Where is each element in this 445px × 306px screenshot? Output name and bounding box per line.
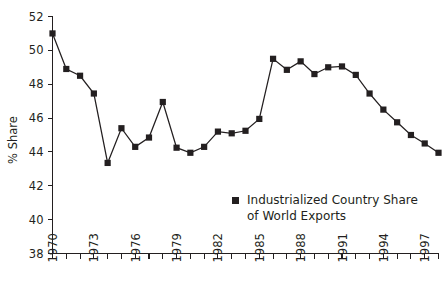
x-tick-label: 1982 <box>211 233 225 262</box>
data-point-marker <box>256 116 262 122</box>
data-point-marker <box>298 58 304 64</box>
data-point-marker <box>284 67 290 73</box>
data-point-marker <box>242 128 248 134</box>
y-tick-label: 48 <box>29 77 44 91</box>
y-tick-label: 46 <box>29 111 44 125</box>
data-point-marker <box>201 144 207 150</box>
y-tick-label: 42 <box>29 179 44 193</box>
y-tick-label: 44 <box>29 145 44 159</box>
data-point-marker <box>270 56 276 62</box>
x-tick-label: 1979 <box>170 233 184 262</box>
data-point-marker <box>77 73 83 79</box>
series-markers <box>49 30 441 166</box>
data-point-marker <box>146 134 152 140</box>
chart-legend: Industrialized Country Share of World Ex… <box>232 193 418 223</box>
line-chart: 3840424446485052 19701973197619791982198… <box>0 0 445 306</box>
x-axis: 1970197319761979198219851988199119941997 <box>46 233 439 262</box>
data-point-marker <box>160 99 166 105</box>
data-point-marker <box>49 30 55 36</box>
x-tick-label: 1970 <box>46 233 60 262</box>
square-marker-icon <box>232 197 239 204</box>
data-point-marker <box>394 119 400 125</box>
x-tick-label: 1985 <box>253 233 267 262</box>
data-point-marker <box>91 90 97 96</box>
y-tick-label: 52 <box>29 10 44 24</box>
data-point-marker <box>105 160 111 166</box>
data-point-marker <box>380 107 386 113</box>
y-tick-label: 38 <box>29 247 44 261</box>
data-point-marker <box>173 145 179 151</box>
x-tick-label: 1973 <box>87 233 101 262</box>
data-point-marker <box>353 72 359 78</box>
y-tick-labels: 3840424446485052 <box>29 10 44 261</box>
data-point-marker <box>229 130 235 136</box>
series-line <box>53 33 439 163</box>
data-point-marker <box>311 71 317 77</box>
x-tick-label: 1994 <box>377 233 391 262</box>
data-point-marker <box>215 129 221 135</box>
x-tick-label: 1976 <box>129 233 143 262</box>
data-point-marker <box>63 66 69 72</box>
data-point-marker <box>435 150 441 156</box>
x-tick-label: 1997 <box>418 233 432 262</box>
y-tick-marks <box>48 17 53 254</box>
x-tick-labels: 1970197319761979198219851988199119941997 <box>46 233 432 262</box>
data-point-marker <box>118 125 124 131</box>
x-tick-label: 1991 <box>336 233 350 262</box>
y-axis-title: % Share <box>6 116 20 164</box>
data-point-marker <box>187 150 193 156</box>
data-point-marker <box>408 132 414 138</box>
data-series <box>49 30 441 166</box>
y-tick-label: 50 <box>29 43 44 57</box>
y-axis: 3840424446485052 <box>29 10 53 261</box>
data-point-marker <box>325 64 331 70</box>
data-point-marker <box>132 144 138 150</box>
data-point-marker <box>366 90 372 96</box>
chart-container: 3840424446485052 19701973197619791982198… <box>0 0 445 306</box>
data-point-marker <box>422 140 428 146</box>
data-point-marker <box>339 63 345 69</box>
x-tick-label: 1988 <box>294 233 308 262</box>
legend-label-line1: Industrialized Country Share <box>247 193 418 207</box>
y-tick-label: 40 <box>29 213 44 227</box>
legend-label-line2: of World Exports <box>247 209 346 223</box>
